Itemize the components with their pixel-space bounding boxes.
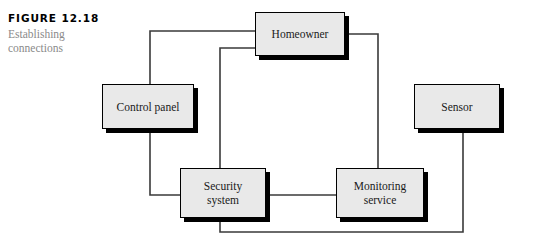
node-homeowner[interactable]: Homeowner: [255, 12, 345, 56]
node-control-panel[interactable]: Control panel: [102, 84, 194, 129]
connector-control-panel-security: [150, 129, 180, 195]
connector-homeowner-security: [220, 48, 255, 168]
node-monitoring-service[interactable]: Monitoring service: [336, 168, 424, 218]
node-sensor-label: Sensor: [437, 100, 476, 114]
node-homeowner-label: Homeowner: [268, 27, 333, 41]
connector-homeowner-monitoring: [345, 34, 378, 168]
node-security-system[interactable]: Security system: [180, 168, 266, 218]
connector-homeowner-control-panel: [150, 31, 255, 84]
node-monitoring-service-label: Monitoring service: [350, 179, 410, 207]
node-security-system-label: Security system: [200, 179, 246, 207]
node-control-panel-label: Control panel: [113, 100, 184, 114]
figure-container: FIGURE 12.18 Establishing connections: [0, 0, 535, 251]
node-sensor[interactable]: Sensor: [414, 84, 500, 129]
